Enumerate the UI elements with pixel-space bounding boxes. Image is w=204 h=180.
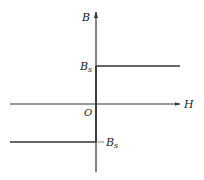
positive-bs-label: Bs	[79, 60, 92, 74]
origin-label: O	[84, 107, 92, 118]
bh-diagram: B H O Bs Bs	[0, 0, 204, 180]
h-axis-label: H	[183, 98, 194, 111]
negative-bs-label: Bs	[105, 136, 118, 150]
b-axis-label: B	[81, 11, 90, 24]
